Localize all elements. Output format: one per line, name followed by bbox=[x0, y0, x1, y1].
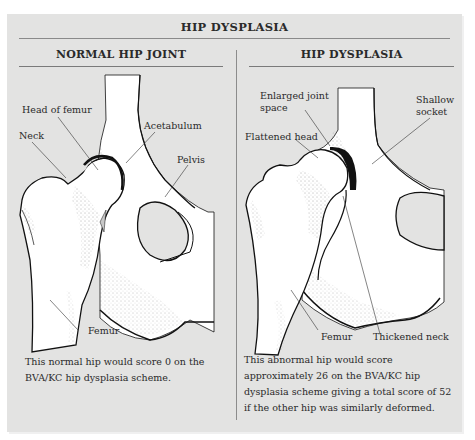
label-shallow-socket: Shallow socket bbox=[416, 94, 454, 118]
label-enlarged-joint-space: Enlarged joint space bbox=[260, 90, 329, 114]
label-femur-dysplasia: Femur bbox=[321, 331, 352, 342]
label-pelvis: Pelvis bbox=[177, 154, 205, 165]
dysplasia-hip-drawing bbox=[246, 88, 444, 355]
label-thickened-neck: Thickened neck bbox=[373, 331, 449, 342]
label-head-of-femur: Head of femur bbox=[22, 104, 92, 115]
dysplasia-caption: This abnormal hip would score approximat… bbox=[244, 352, 452, 416]
label-neck: Neck bbox=[19, 130, 44, 141]
normal-hip-caption: This normal hip would score 0 on the BVA… bbox=[25, 354, 225, 386]
label-acetabulum: Acetabulum bbox=[144, 120, 202, 131]
label-femur-normal: Femur bbox=[88, 325, 119, 336]
normal-hip-drawing bbox=[20, 75, 214, 352]
label-flattened-head: Flattened head bbox=[245, 131, 318, 142]
